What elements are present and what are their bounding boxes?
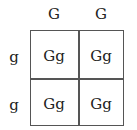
grid-divider-horizontal [31, 78, 123, 80]
side-allele-2: g [6, 98, 22, 113]
cell-1-1: Gg [31, 49, 77, 64]
side-allele-1: g [6, 50, 22, 65]
cell-2-2: Gg [78, 97, 124, 112]
top-allele-2: G [91, 7, 111, 22]
punnett-grid: Gg Gg Gg Gg [30, 30, 124, 126]
cell-2-1: Gg [31, 97, 77, 112]
cell-1-2: Gg [78, 49, 124, 64]
top-allele-1: G [44, 7, 64, 22]
